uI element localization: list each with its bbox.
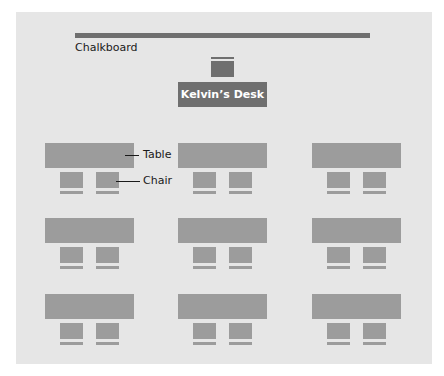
student-chair-back — [229, 342, 252, 345]
student-chair — [60, 172, 83, 188]
student-chair-back — [60, 191, 83, 194]
student-chair — [60, 323, 83, 339]
teacher-desk: Kelvin’s Desk — [178, 82, 267, 107]
chair-leader-line — [116, 181, 140, 182]
student-chair — [327, 172, 350, 188]
student-chair-back — [363, 266, 386, 269]
teacher-desk-label: Kelvin’s Desk — [181, 88, 264, 101]
student-chair — [193, 323, 216, 339]
student-chair-back — [229, 191, 252, 194]
student-chair-back — [193, 342, 216, 345]
student-table — [45, 294, 134, 319]
student-chair-back — [193, 191, 216, 194]
student-chair-back — [363, 191, 386, 194]
student-chair-back — [96, 266, 119, 269]
student-table — [178, 294, 267, 319]
chair-label: Chair — [143, 174, 172, 187]
student-chair-back — [60, 342, 83, 345]
student-chair — [363, 247, 386, 263]
student-chair-back — [327, 266, 350, 269]
student-chair-back — [363, 342, 386, 345]
student-chair — [229, 323, 252, 339]
student-table — [178, 143, 267, 168]
chalkboard-label: Chalkboard — [75, 41, 138, 54]
student-table — [45, 218, 134, 243]
chalkboard — [75, 33, 370, 38]
student-chair — [60, 247, 83, 263]
teacher-chair — [211, 61, 234, 77]
student-chair-back — [229, 266, 252, 269]
student-chair-back — [96, 191, 119, 194]
student-chair — [363, 323, 386, 339]
student-chair-back — [96, 342, 119, 345]
student-chair-back — [327, 342, 350, 345]
student-chair — [229, 172, 252, 188]
student-table — [312, 294, 401, 319]
student-chair-back — [193, 266, 216, 269]
table-leader-line — [125, 155, 139, 156]
student-chair — [229, 247, 252, 263]
student-chair — [96, 172, 119, 188]
teacher-chair-back — [211, 57, 234, 59]
student-chair — [327, 323, 350, 339]
student-table — [45, 143, 134, 168]
student-table — [178, 218, 267, 243]
student-chair — [327, 247, 350, 263]
student-chair — [96, 247, 119, 263]
student-chair-back — [60, 266, 83, 269]
student-chair — [363, 172, 386, 188]
student-chair — [193, 172, 216, 188]
student-chair — [96, 323, 119, 339]
student-table — [312, 218, 401, 243]
student-table — [312, 143, 401, 168]
student-chair-back — [327, 191, 350, 194]
student-chair — [193, 247, 216, 263]
table-label: Table — [143, 148, 171, 161]
